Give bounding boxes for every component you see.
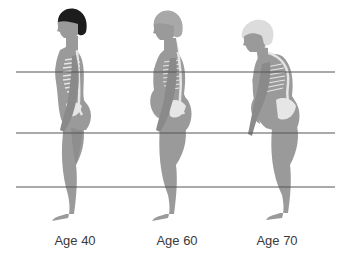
figure-age-60 bbox=[150, 11, 191, 222]
label-age-70: Age 70 bbox=[256, 233, 297, 248]
diagram-canvas bbox=[0, 0, 354, 257]
label-age-60: Age 60 bbox=[156, 233, 197, 248]
label-age-40: Age 40 bbox=[54, 233, 95, 248]
figure-age-70 bbox=[242, 20, 300, 220]
aging-posture-diagram: Age 40 Age 60 Age 70 bbox=[0, 0, 354, 257]
figure-age-40 bbox=[52, 9, 91, 222]
